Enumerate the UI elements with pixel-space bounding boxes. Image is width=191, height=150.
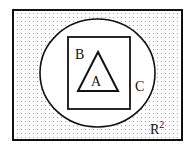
set-a-label: A <box>91 74 102 89</box>
set-b-label: B <box>75 47 84 62</box>
universe-label-superscript: 2 <box>159 119 164 130</box>
set-c-label: C <box>135 79 144 94</box>
set-diagram: B A C R2 <box>0 0 191 150</box>
